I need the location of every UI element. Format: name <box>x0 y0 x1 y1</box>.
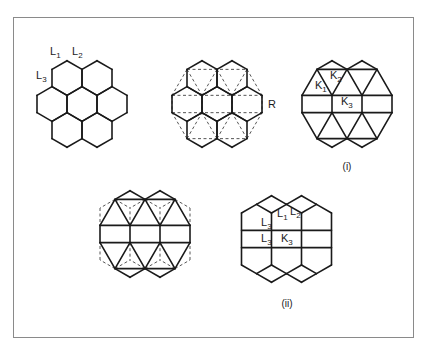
hexagon-edge <box>67 139 82 148</box>
hexagon-edge <box>202 113 217 122</box>
hexagon-edge <box>202 61 217 70</box>
edge <box>362 139 377 148</box>
hexagon-edge <box>217 139 232 148</box>
hexagon-edge <box>202 139 217 148</box>
edge <box>317 113 332 139</box>
label-K3-panel-ii: K3 <box>281 232 293 247</box>
edge <box>257 204 272 213</box>
label-K1-panel-i: K1 <box>315 79 327 94</box>
edge <box>347 61 362 70</box>
hexagon-edge <box>217 87 232 96</box>
edge <box>317 265 332 274</box>
hexagon-edge <box>187 61 202 70</box>
edge <box>317 204 332 213</box>
edge <box>115 191 130 200</box>
hexagon-edge <box>232 113 247 122</box>
label-L3-panel1: L3 <box>36 69 47 84</box>
label-K3-panel-i: K3 <box>341 95 353 110</box>
edge <box>160 191 175 200</box>
hexagon-edge <box>37 87 52 96</box>
edge <box>377 113 392 139</box>
edge <box>145 191 160 200</box>
edge <box>302 274 317 283</box>
hexagon-edge <box>97 139 112 148</box>
caption-i: (i) <box>343 161 352 172</box>
edge <box>115 269 130 278</box>
hexagon-edge <box>187 87 202 96</box>
label-R: R <box>268 98 276 110</box>
hexagon-edge <box>67 61 82 70</box>
hexagon-edge <box>172 87 187 96</box>
label-K2-panel-i: K2 <box>330 69 342 84</box>
hexagon-edge <box>82 113 97 122</box>
edge <box>362 113 377 139</box>
hexagon-edge <box>97 113 112 122</box>
edge <box>287 265 302 274</box>
hexagon-edge <box>232 61 247 70</box>
lattice-diagram: L1L2L3RK1K2K3L1L2L3L3K3 (i) (ii) <box>0 0 430 348</box>
edge <box>130 191 145 200</box>
panel-hexagonal-lattice <box>37 61 127 148</box>
hexagon-edge <box>67 113 82 122</box>
edge <box>287 274 302 283</box>
edge <box>257 265 272 274</box>
edge <box>272 196 287 205</box>
hexagon-edge <box>82 61 97 70</box>
hexagon-edge <box>247 113 262 122</box>
hexagon-edge <box>52 87 67 96</box>
hexagon-edge <box>187 113 202 122</box>
edge <box>257 196 272 205</box>
edge <box>145 269 160 278</box>
hexagon-edge <box>112 113 127 122</box>
edge <box>347 69 362 95</box>
edge <box>302 113 317 139</box>
hexagon-edge <box>97 61 112 70</box>
hexagon-edge <box>52 139 67 148</box>
hexagon-edge <box>82 87 97 96</box>
edge <box>347 113 362 139</box>
edge <box>362 69 377 95</box>
edge <box>302 265 317 274</box>
edge <box>302 196 317 205</box>
label-L2-panel1: L2 <box>72 45 83 60</box>
edge <box>332 139 347 148</box>
edge <box>287 196 302 205</box>
edge <box>302 204 317 213</box>
label-L3a-panel-ii: L3 <box>261 216 272 231</box>
hexagon-edge <box>232 87 247 96</box>
panel-captions: (i) (ii) <box>281 161 351 309</box>
label-L3b-panel-ii: L3 <box>261 232 272 247</box>
hexagon-edge <box>82 139 97 148</box>
edge <box>242 265 257 274</box>
panel-triangulated-with-dashed-hexagons <box>100 191 190 278</box>
edge <box>377 69 392 95</box>
edge <box>160 269 175 278</box>
edge <box>272 265 287 274</box>
edge <box>272 274 287 283</box>
hexagon-edge <box>52 61 67 70</box>
hexagon-edge <box>37 113 52 122</box>
hexagon-edge <box>52 113 67 122</box>
edge <box>347 139 362 148</box>
hexagon-edge <box>112 87 127 96</box>
edge <box>317 139 332 148</box>
caption-ii: (ii) <box>281 298 292 309</box>
hexagon-edge <box>187 139 202 148</box>
hexagon-edge <box>172 113 187 122</box>
label-L1-panel-ii: L1 <box>277 207 288 222</box>
edge <box>242 204 257 213</box>
edge <box>257 274 272 283</box>
hexagon-edge <box>217 61 232 70</box>
hexagon-edge <box>67 87 82 96</box>
label-L2-panel-ii: L2 <box>290 205 301 220</box>
hexagon-edge <box>202 87 217 96</box>
hexagon-edge <box>97 87 112 96</box>
edge <box>332 113 347 139</box>
edge <box>362 61 377 70</box>
edge <box>130 269 145 278</box>
label-L1-panel1: L1 <box>50 45 61 60</box>
hexagon-edge <box>217 113 232 122</box>
lattice-labels: L1L2L3RK1K2K3L1L2L3L3K3 <box>36 45 353 247</box>
panel-hexagons-with-dashed-triangulation <box>172 61 262 148</box>
hexagon-edge <box>232 139 247 148</box>
